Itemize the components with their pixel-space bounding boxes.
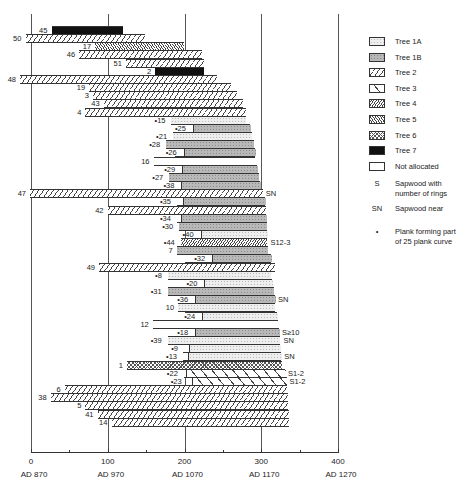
bar-segment-tree-1a <box>178 304 275 311</box>
legend-label: Tree 5 <box>395 115 416 125</box>
bar-label: 5 <box>77 401 81 410</box>
bar-segment-tree-4 <box>181 239 268 246</box>
bar-label: 48 <box>8 75 16 84</box>
bar-label: •39 <box>151 336 162 345</box>
bar-label: 38 <box>38 393 46 402</box>
bar-segment-tree-2 <box>79 51 202 58</box>
legend-label: Tree 1A <box>395 37 421 47</box>
bar-label: 50 <box>13 34 21 43</box>
bar-segment-tree-2 <box>93 92 237 99</box>
sapwood-note: S12-3 <box>270 238 290 247</box>
legend-swatch <box>369 115 385 124</box>
bar-label: 51 <box>114 59 122 68</box>
bar-segment-tree-1b <box>181 215 267 222</box>
bar-segment-tree-5 <box>95 43 184 50</box>
bar-label: •30 <box>162 222 173 231</box>
bar-segment-tree-1a <box>173 133 252 140</box>
bar-segment-tree-1a <box>188 353 283 360</box>
bar-segment-tree-1b <box>179 223 266 230</box>
bar-segment-tree-2 <box>104 100 243 107</box>
legend-label: Tree 6 <box>395 131 416 141</box>
legend-symbol: • <box>369 227 385 237</box>
x-tick <box>31 449 32 453</box>
bar-segment-tree-2 <box>126 60 204 67</box>
bar-segment-tree-2 <box>112 419 289 426</box>
legend-symbol: SN <box>369 204 385 214</box>
gridline <box>338 14 339 452</box>
legend-label: Tree 3 <box>395 84 416 94</box>
bar-segment-tree-3 <box>192 378 287 385</box>
x-minor-tick <box>300 450 301 453</box>
bar-row-14 <box>112 418 289 427</box>
x-minor-tick <box>146 450 147 453</box>
x-tick-date: AD 870 <box>9 470 59 480</box>
legend-swatch <box>369 131 385 140</box>
bar-label: •8 <box>155 271 162 280</box>
bar-label: 10 <box>166 303 174 312</box>
legend-label: Tree 4 <box>395 99 416 109</box>
bar-segment-tree-2 <box>85 402 288 409</box>
bar-label: 14 <box>99 418 107 427</box>
bar-label: •27 <box>152 173 163 182</box>
legend-swatch <box>369 99 385 108</box>
bar-segment-tree-2 <box>65 386 288 393</box>
x-tick-date: AD 1170 <box>239 470 289 480</box>
bar-segment-tree-6 <box>127 362 282 369</box>
bar-label: 12 <box>140 320 148 329</box>
x-tick-date: AD 1070 <box>163 470 213 480</box>
bar-label: •28 <box>149 140 160 149</box>
bar-segment-tree-na <box>153 321 278 328</box>
bar-segment-tree-1b <box>177 247 268 254</box>
x-minor-tick <box>69 450 70 453</box>
x-tick <box>108 449 109 453</box>
bar-label: 16 <box>141 157 149 166</box>
bar-label: 3 <box>85 91 89 100</box>
sapwood-note: SN <box>284 352 294 361</box>
legend-label: Not allocated <box>395 162 439 172</box>
bar-segment-tree-1a <box>201 231 268 238</box>
sapwood-note: SN <box>278 295 288 304</box>
bar-segment-tree-1b <box>183 198 266 205</box>
legend-swatch <box>369 84 385 93</box>
bar-segment-tree-1b <box>168 288 274 295</box>
bar-segment-tree-1a <box>168 337 281 344</box>
x-tick-label: 300 <box>236 457 286 467</box>
legend-label: Tree 2 <box>395 68 416 78</box>
x-tick-label: 200 <box>160 457 210 467</box>
bar-segment-tree-1a <box>171 117 245 124</box>
bar-segment-tree-1a <box>202 313 277 320</box>
legend-swatch <box>369 53 385 62</box>
bar-segment-tree-2 <box>20 76 217 83</box>
bar-label: •15 <box>155 116 166 125</box>
bar-segment-tree-1b <box>169 174 259 181</box>
bar-segment-tree-7 <box>155 68 203 75</box>
x-tick-label: 100 <box>83 457 133 467</box>
bar-segment-tree-2 <box>99 264 275 271</box>
legend-swatch <box>369 37 385 46</box>
legend-symbol-label: Sapwood near <box>395 204 443 214</box>
bar-segment-tree-2 <box>85 109 245 116</box>
x-minor-tick <box>223 450 224 453</box>
x-tick <box>185 449 186 453</box>
x-tick-date: AD 970 <box>86 470 136 480</box>
bar-segment-tree-1b <box>195 296 276 303</box>
bar-segment-tree-1b <box>193 125 252 132</box>
bar-segment-tree-1a <box>189 345 281 352</box>
bar-segment-tree-1b <box>166 141 253 148</box>
sapwood-note: S1-2 <box>290 377 306 386</box>
bar-segment-tree-1b <box>181 182 261 189</box>
x-tick-date: AD 1270 <box>316 470 366 480</box>
bar-segment-tree-1b <box>182 166 257 173</box>
bar-label: 47 <box>18 189 26 198</box>
x-tick <box>338 449 339 453</box>
dendro-chart: 4550174651248193434•15•25•21•28•2616•29•… <box>0 0 473 499</box>
bar-segment-tree-1b <box>184 149 256 156</box>
bar-segment-tree-2 <box>26 35 146 42</box>
sapwood-note: SN <box>266 189 276 198</box>
bar-segment-tree-3 <box>186 370 286 377</box>
bar-segment-tree-2 <box>98 411 289 418</box>
legend-swatch <box>369 68 385 77</box>
legend-symbol-label: Plank forming part of 25 plank curve <box>395 227 456 247</box>
bar-segment-tree-2 <box>51 394 288 401</box>
bar-label: 1 <box>119 361 123 370</box>
